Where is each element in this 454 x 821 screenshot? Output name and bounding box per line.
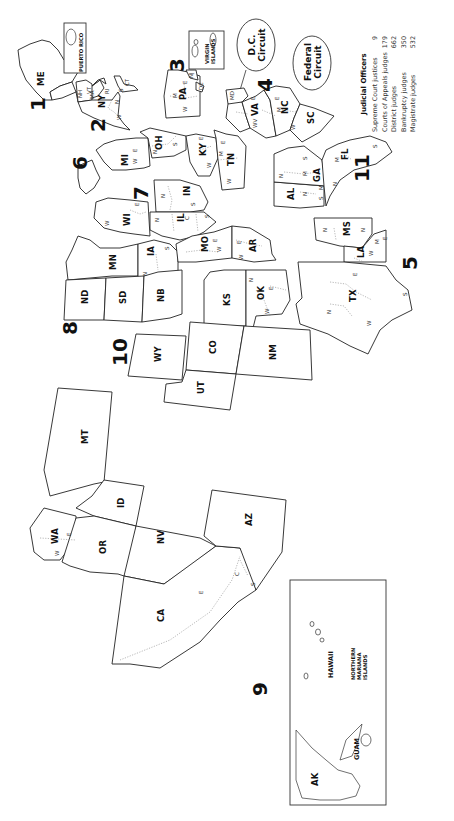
legend-row: Supreme Court justices9 [371, 36, 380, 132]
state-label-me: ME [36, 71, 46, 86]
circuit-number-9: 9 [248, 682, 272, 696]
district-nc-e: E [274, 97, 280, 100]
state-label-mn: MN [108, 254, 118, 270]
state-label-or: OR [98, 540, 108, 554]
circuit-7-shapes [94, 180, 216, 240]
state-label-nv: NV [156, 530, 166, 544]
state-label-fl: FL [340, 148, 350, 160]
legend-row: Bankruptcy judges350 [400, 36, 409, 132]
state-label-in: IN [182, 185, 192, 196]
district-al-n2: N [302, 192, 308, 196]
district-tn-m: M [218, 151, 224, 156]
state-label-ut: UT [196, 381, 206, 394]
district-fl-m: M [334, 157, 340, 162]
state-mt [44, 388, 112, 496]
district-ga-s: S [302, 157, 308, 161]
puerto-rico-island [66, 29, 76, 45]
state-label-ks: KS [222, 293, 232, 306]
state-label-de: DE [198, 82, 204, 90]
district-il-n: N [154, 218, 160, 222]
district-tx-w: W [366, 321, 372, 326]
virgin-islands-label: VIRGIN ISLANDS [204, 39, 216, 64]
district-il-s: S [204, 215, 210, 219]
district-wi-e: E [134, 203, 140, 206]
dc-circuit-label: D.C. Circuit [247, 28, 267, 62]
state-label-ar: AR [248, 238, 258, 252]
circuit-number-11: 11 [350, 154, 374, 182]
district-ky-e: E [198, 137, 204, 140]
state-label-tn: TN [226, 153, 236, 166]
district-pa-w: W [182, 107, 188, 112]
district-ok-e: E [268, 287, 274, 290]
district-ca-e: E [198, 591, 204, 594]
state-label-ky: KY [198, 143, 208, 156]
legend-row: District judges662 [390, 36, 399, 132]
circuit-number-7: 7 [129, 186, 153, 200]
state-label-ga: GA [312, 168, 322, 182]
district-in-s: S [190, 203, 196, 207]
state-label-id: ID [116, 497, 126, 508]
state-label-sd: SD [118, 290, 128, 304]
district-ok-n: N [248, 278, 254, 282]
federal-circuit-label: Federal Circuit [303, 42, 323, 82]
state-label-mi: MI [120, 154, 130, 166]
circuit-number-1: 1 [26, 97, 50, 111]
district-al-m: M [318, 185, 324, 190]
state-label-co: CO [208, 340, 218, 354]
district-fl-s: S [372, 145, 378, 149]
state-label-nd: ND [80, 289, 90, 304]
district-oh-s: S [172, 143, 178, 147]
district-al-n: N [278, 174, 284, 178]
legend-row: Magistrate judges532 [409, 36, 418, 132]
district-mi-w: W [132, 159, 138, 164]
hawaii-label: HAWAII [328, 651, 334, 678]
circuit-4-shapes [226, 86, 334, 142]
district-tx-s: S [402, 293, 408, 297]
state-label-wi: WI [122, 213, 132, 226]
district-ar-e: E [236, 241, 242, 244]
district-tx-n: N [326, 310, 332, 314]
district-wa-e: E [66, 533, 72, 536]
district-tx-e: E [352, 273, 358, 276]
state-label-wv: WV [252, 119, 258, 128]
state-label-ny: NY [97, 94, 107, 108]
district-tn-w: W [226, 179, 232, 184]
district-al-s: S [318, 197, 324, 201]
state-label-ct: CT [124, 79, 130, 86]
state-label-pa: PA [178, 88, 188, 100]
circuit-number-4: 4 [253, 78, 277, 92]
district-ga-m: M [302, 171, 308, 176]
state-label-wy: WY [153, 346, 163, 362]
state-label-md: MD [229, 91, 235, 100]
district-ky-w: W [206, 163, 212, 168]
state-label-va: VA [250, 103, 260, 116]
district-la-m: M [374, 239, 380, 244]
alaska-label: AK [310, 772, 320, 786]
circuit-number-6: 6 [68, 156, 92, 170]
state-label-al: AL [286, 188, 296, 200]
state-label-ca: CA [156, 609, 166, 622]
state-label-wa: WA [50, 528, 60, 544]
state-mn [66, 236, 138, 280]
district-tn-e: E [220, 141, 226, 144]
district-ia-n: N [142, 272, 148, 276]
district-ca-c: C [234, 572, 240, 576]
district-la-w: W [368, 251, 374, 256]
district-pa-e: E [182, 81, 188, 84]
circuit-number-3: 3 [165, 58, 189, 72]
circuit-number-5: 5 [398, 256, 422, 270]
district-il-c: C [184, 216, 190, 220]
state-label-la: LA [356, 246, 366, 258]
state-label-vt: VT [86, 87, 92, 94]
state-label-ia: IA [146, 246, 156, 256]
northern-mariana-label: NORTHERN MARIANA ISLANDS [350, 648, 368, 680]
state-label-nb: NB [156, 288, 166, 302]
state-label-mo: MO [200, 236, 210, 252]
district-la-e: E [382, 237, 388, 240]
state-label-az: AZ [244, 513, 254, 526]
district-ms-n: N [322, 228, 328, 232]
district-ca-s: S [250, 583, 256, 587]
state-label-nj: NJ [188, 72, 194, 78]
district-ok-w: W [264, 309, 270, 314]
district-wi-w: W [104, 221, 110, 226]
